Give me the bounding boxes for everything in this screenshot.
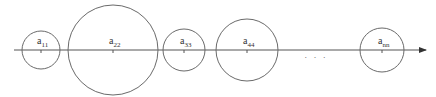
circle-label: a44 <box>243 35 255 49</box>
diagram-canvas: a11a22a33a44ann · · · <box>0 0 436 97</box>
circle-label: a11 <box>37 35 49 49</box>
circle-label: a33 <box>180 35 192 49</box>
circle-label: ann <box>378 35 390 49</box>
ellipsis: · · · <box>304 52 328 62</box>
circle-label: a22 <box>109 35 121 49</box>
